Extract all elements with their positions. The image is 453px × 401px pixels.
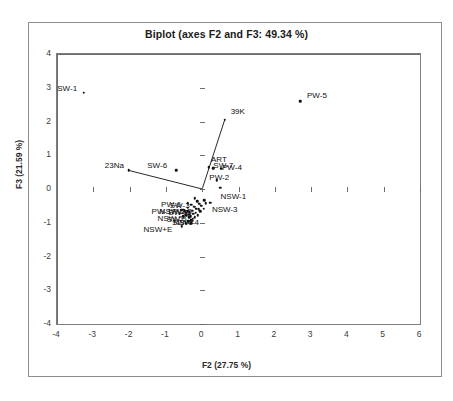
y-axis-tick-label: 4 <box>36 48 51 58</box>
y-axis-tick <box>200 155 205 156</box>
x-axis-tick-label: 6 <box>417 329 422 339</box>
data-point <box>299 100 302 103</box>
data-point <box>192 213 195 216</box>
vector-label: 39K <box>231 107 245 116</box>
y-axis-tick-label: 2 <box>36 116 51 126</box>
chart-title: Biplot (axes F2 and F3: 49.34 %) <box>0 28 453 40</box>
x-axis-tick-label: 2 <box>271 329 276 339</box>
x-axis-tick-label: 0 <box>199 329 204 339</box>
x-axis-tick <box>347 187 348 192</box>
data-point <box>197 214 200 217</box>
x-axis-tick <box>93 187 94 192</box>
x-axis-tick-label: 5 <box>380 329 385 339</box>
y-axis-tick <box>200 290 205 291</box>
data-point-label: NSW+E <box>144 224 173 233</box>
data-point <box>190 204 193 207</box>
x-axis-tick-label: -1 <box>161 329 169 339</box>
data-point-label: SW-1 <box>57 83 77 92</box>
data-point <box>203 199 206 202</box>
x-axis-tick <box>420 187 421 192</box>
data-point-label: NSW-4 <box>173 218 199 227</box>
data-point <box>209 201 212 204</box>
y-axis-tick <box>200 223 205 224</box>
x-axis-tick-label: 4 <box>344 329 349 339</box>
data-point-label: NSW-3 <box>212 205 238 214</box>
x-axis-tick <box>57 187 58 192</box>
x-axis-tick-label: 3 <box>308 329 313 339</box>
x-axis-tick <box>166 187 167 192</box>
x-axis-tick-label: 1 <box>235 329 240 339</box>
x-axis-tick-label: -4 <box>52 329 60 339</box>
data-point <box>175 169 178 172</box>
y-axis-tick <box>200 324 205 325</box>
vector-tip-point <box>223 119 226 122</box>
data-point-label: PW-5 <box>307 90 327 99</box>
data-point <box>202 207 205 210</box>
y-axis-tick <box>200 54 205 55</box>
x-axis-title: F2 (27.75 %) <box>0 360 453 370</box>
data-point-label: SW-6 <box>147 161 167 170</box>
data-point <box>199 210 202 213</box>
plot-area: SW-1PW-5SW-6ARTSW-7PW-4PW-2NSW-1NSW-3PW-… <box>56 53 421 325</box>
data-point <box>83 92 86 95</box>
x-axis-tick-label: -3 <box>89 329 97 339</box>
data-point <box>205 202 208 205</box>
y-axis-tick-label: -3 <box>36 284 51 294</box>
y-axis-tick-label: -1 <box>36 217 51 227</box>
y-axis-tick-label: -4 <box>36 318 51 328</box>
y-axis-tick-label: -2 <box>36 251 51 261</box>
vector-tip-point <box>128 169 131 172</box>
x-axis-tick <box>384 187 385 192</box>
x-axis-tick <box>275 187 276 192</box>
y-axis-title: F3 (21.59 %) <box>14 140 24 189</box>
x-axis-tick <box>130 187 131 192</box>
x-axis-tick <box>311 187 312 192</box>
y-axis-tick-label: 0 <box>36 183 51 193</box>
data-point-label: PW-2 <box>209 172 229 181</box>
data-point <box>207 166 210 169</box>
data-point-label: PW-4 <box>222 162 242 171</box>
data-point <box>219 186 222 189</box>
y-axis-tick-label: 3 <box>36 82 51 92</box>
y-axis-tick <box>200 122 205 123</box>
data-point <box>181 225 184 228</box>
y-axis-tick-label: 1 <box>36 149 51 159</box>
y-axis-tick <box>200 257 205 258</box>
y-axis-tick <box>200 88 205 89</box>
x-axis-tick-label: -2 <box>125 329 133 339</box>
data-point-label: NSW-1 <box>221 192 247 201</box>
vector-label: 23Na <box>105 160 124 169</box>
y-axis-tick <box>200 189 205 190</box>
